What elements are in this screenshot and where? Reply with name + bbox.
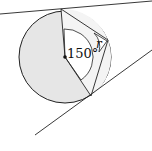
geometry-diagram: 150° r	[0, 0, 152, 151]
angle-label: 150°	[67, 46, 98, 61]
